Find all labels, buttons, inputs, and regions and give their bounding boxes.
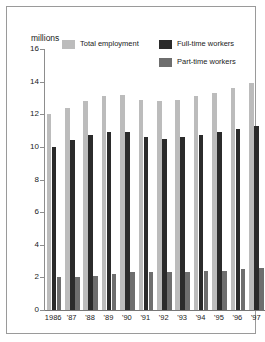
bar-group (175, 49, 190, 310)
bar-part-time-workers (130, 272, 135, 310)
bar-group (249, 49, 264, 310)
y-axis-tick-label-wrap: 6 (7, 208, 39, 216)
y-axis-unit-label: millions (31, 33, 59, 43)
chart-legend: Total employment Full-time workers Part-… (62, 39, 252, 75)
bar-part-time-workers (75, 277, 80, 310)
y-axis-tick (40, 114, 45, 115)
y-axis-tick-label-wrap: 0 (7, 306, 39, 314)
bar-full-time-workers (180, 137, 185, 310)
y-axis-tick-label-wrap: 14 (7, 78, 39, 86)
bar-total-employment (175, 100, 180, 310)
bar-total-employment (47, 114, 52, 310)
bar-group (102, 49, 117, 310)
bar-full-time-workers (162, 139, 167, 310)
y-axis-tick-label-wrap: 12 (7, 110, 39, 118)
bar-total-employment (194, 96, 199, 310)
bar-total-employment (249, 83, 254, 310)
y-axis-tick (40, 180, 45, 181)
legend-swatch-part-time-workers (159, 58, 172, 67)
y-axis-tick (40, 277, 45, 278)
bar-part-time-workers (57, 277, 62, 310)
y-axis-tick (40, 245, 45, 246)
y-axis-tick-label: 12 (9, 110, 39, 118)
bar-group (157, 49, 172, 310)
x-axis-tick-label: '97 (243, 313, 265, 322)
bar-full-time-workers (70, 140, 75, 310)
bar-group (65, 49, 80, 310)
y-axis-tick-label-wrap: 10 (7, 143, 39, 151)
legend-label-part-time-workers: Part-time workers (177, 57, 236, 67)
y-axis-tick-label-wrap: 16 (7, 45, 39, 53)
y-axis-tick (40, 49, 45, 50)
bar-total-employment (139, 100, 144, 310)
y-axis-tick-label: 2 (9, 273, 39, 281)
y-axis-tick-label: 6 (9, 208, 39, 216)
bar-full-time-workers (88, 135, 93, 310)
y-axis-tick-label-wrap: 2 (7, 273, 39, 281)
bar-part-time-workers (241, 269, 246, 310)
bar-total-employment (102, 96, 107, 310)
bar-full-time-workers (236, 129, 241, 310)
x-axis-line (44, 310, 265, 311)
legend-label-full-time-workers: Full-time workers (177, 39, 234, 49)
bar-group (120, 49, 135, 310)
chart-figure: millions 0246810121416 1986'87'88'89'90'… (0, 0, 265, 342)
bar-part-time-workers (185, 272, 190, 310)
bar-full-time-workers (217, 132, 222, 310)
y-axis-tick-label: 16 (9, 45, 39, 53)
bar-total-employment (157, 101, 162, 310)
bar-part-time-workers (222, 271, 227, 310)
bar-total-employment (83, 101, 88, 310)
bar-part-time-workers (93, 276, 98, 310)
bar-total-employment (231, 88, 236, 310)
bar-group (139, 49, 154, 310)
bar-part-time-workers (149, 272, 154, 310)
legend-swatch-total-employment (62, 40, 75, 49)
y-axis-tick-label: 8 (9, 176, 39, 184)
bar-group (83, 49, 98, 310)
bar-part-time-workers (167, 272, 172, 310)
y-axis-tick-label: 14 (9, 78, 39, 86)
y-axis-tick-label: 0 (9, 306, 39, 314)
y-axis-tick (40, 82, 45, 83)
bar-total-employment (212, 93, 217, 310)
y-axis-tick-label-wrap: 8 (7, 176, 39, 184)
y-axis-tick (40, 147, 45, 148)
bar-group (47, 49, 62, 310)
y-axis-tick-label: 4 (9, 241, 39, 249)
y-axis-tick-label-wrap: 4 (7, 241, 39, 249)
y-axis-tick (40, 212, 45, 213)
legend-label-total-employment: Total employment (80, 39, 139, 49)
y-axis-tick (40, 310, 45, 311)
bar-group (212, 49, 227, 310)
bar-total-employment (120, 95, 125, 310)
bar-full-time-workers (199, 135, 204, 310)
bar-full-time-workers (254, 126, 259, 310)
bar-group (194, 49, 209, 310)
bar-full-time-workers (107, 132, 112, 310)
legend-swatch-full-time-workers (159, 40, 172, 49)
bar-part-time-workers (204, 271, 209, 310)
bar-part-time-workers (112, 274, 117, 310)
chart-frame: millions 0246810121416 1986'87'88'89'90'… (6, 6, 256, 334)
y-axis-tick-label: 10 (9, 143, 39, 151)
bar-full-time-workers (144, 137, 149, 310)
bar-group (231, 49, 246, 310)
bar-full-time-workers (52, 147, 57, 310)
bar-total-employment (65, 108, 70, 310)
bar-full-time-workers (125, 132, 130, 310)
bar-part-time-workers (259, 268, 264, 310)
